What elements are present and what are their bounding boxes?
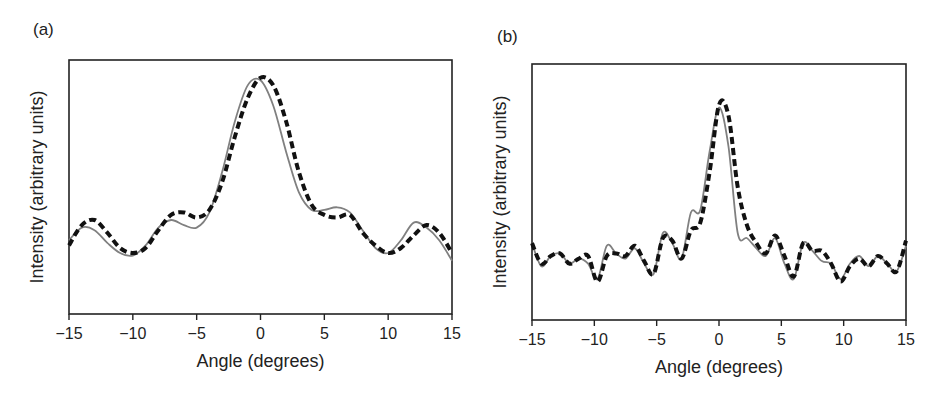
y-axis-title: Intensity (arbitrary units) [490,95,510,288]
x-tick-label: 5 [777,331,786,348]
x-tick-label: −15 [55,325,82,342]
x-axis-title: Angle (degrees) [196,351,324,371]
x-axis-title: Angle (degrees) [655,357,783,377]
chart-b-svg: −15−10−5051015Angle (degrees)Intensity (… [470,0,947,395]
x-tick-label: −10 [581,331,608,348]
x-tick-label: −10 [119,325,146,342]
x-tick-label: 5 [320,325,329,342]
x-tick-label: 15 [443,325,461,342]
x-tick-label: 15 [897,331,915,348]
y-axis-title: Intensity (arbitrary units) [27,90,47,283]
x-tick-label: 10 [379,325,397,342]
x-tick-label: −5 [188,325,206,342]
x-tick-label: 10 [835,331,853,348]
chart-a-svg: −15−10−5051015Angle (degrees)Intensity (… [0,0,470,395]
x-tick-label: −15 [518,331,545,348]
x-tick-label: 0 [715,331,724,348]
chart-panel-a: (a) −15−10−5051015Angle (degrees)Intensi… [0,0,470,395]
series-dashed-black-line [69,77,452,253]
series-solid-gray-line [69,79,452,261]
x-tick-label: −5 [648,331,666,348]
x-tick-label: 0 [256,325,265,342]
chart-panel-b: (b) −15−10−5051015Angle (degrees)Intensi… [470,0,947,395]
series-dashed-black-line [532,100,906,281]
plot-frame [69,60,452,314]
